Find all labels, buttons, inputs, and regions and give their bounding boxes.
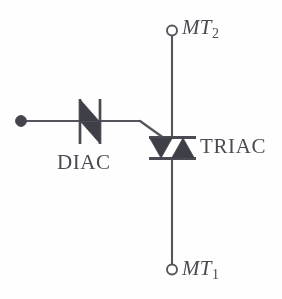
mt1-terminal-circle xyxy=(167,265,177,275)
triac-up-triangle xyxy=(172,138,194,158)
mt1-label: MT1 xyxy=(182,258,219,279)
diac-lower-triangle xyxy=(81,122,100,144)
triac-symbol xyxy=(149,138,196,159)
triac-label: TRIAC xyxy=(200,136,266,157)
diac-symbol xyxy=(80,99,100,144)
mt2-terminal-circle xyxy=(167,26,177,36)
diac-upper-triangle xyxy=(81,100,100,122)
diac-label: DIAC xyxy=(57,152,111,173)
mt2-label: MT2 xyxy=(182,17,219,38)
circuit-diagram: DIAC TRIAC MT2 MT1 xyxy=(0,0,282,299)
triac-down-triangle xyxy=(150,139,172,159)
mt1-label-subscript: 1 xyxy=(212,267,219,282)
mt2-label-subscript: 2 xyxy=(212,26,219,41)
mt2-label-base: MT xyxy=(182,15,212,39)
mt1-label-base: MT xyxy=(182,256,212,280)
input-terminal-dot xyxy=(16,116,27,127)
